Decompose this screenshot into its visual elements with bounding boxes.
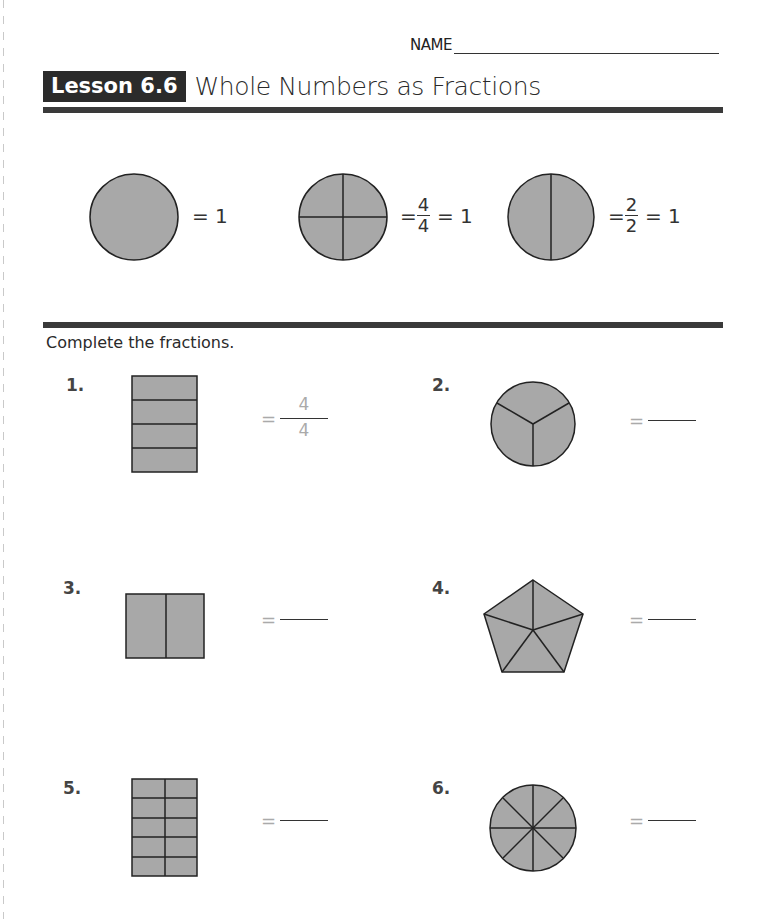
q3-square-halves-icon bbox=[126, 594, 204, 658]
question-4-equals: = bbox=[629, 609, 644, 630]
question-1-equals: = bbox=[261, 408, 276, 429]
question-1-denominator: 4 bbox=[280, 420, 328, 440]
question-1-number: 1. bbox=[66, 375, 84, 395]
question-4-answer-blank[interactable] bbox=[648, 619, 696, 620]
question-1-numerator: 4 bbox=[280, 394, 328, 414]
question-3-equals: = bbox=[261, 609, 276, 630]
q2-circle-thirds-icon bbox=[491, 382, 575, 466]
q6-circle-eighths-icon bbox=[490, 785, 576, 871]
question-5-answer-blank[interactable] bbox=[280, 820, 328, 821]
q5-grid-tenths-icon bbox=[132, 779, 197, 876]
question-6-answer-blank[interactable] bbox=[648, 820, 696, 821]
q1-rectangle-fourths-icon bbox=[132, 376, 197, 472]
question-1-fraction-bar bbox=[280, 418, 328, 419]
question-2-answer-blank[interactable] bbox=[648, 420, 696, 421]
question-2-equals: = bbox=[629, 410, 644, 431]
question-6-equals: = bbox=[629, 810, 644, 831]
question-4-number: 4. bbox=[432, 578, 450, 598]
question-6-number: 6. bbox=[432, 778, 450, 798]
question-5-equals: = bbox=[261, 810, 276, 831]
question-5-number: 5. bbox=[63, 778, 81, 798]
question-3-number: 3. bbox=[63, 578, 81, 598]
q4-pentagon-fifths-icon bbox=[484, 580, 583, 672]
question-3-answer-blank[interactable] bbox=[280, 619, 328, 620]
question-shapes bbox=[0, 0, 765, 919]
question-2-number: 2. bbox=[432, 375, 450, 395]
